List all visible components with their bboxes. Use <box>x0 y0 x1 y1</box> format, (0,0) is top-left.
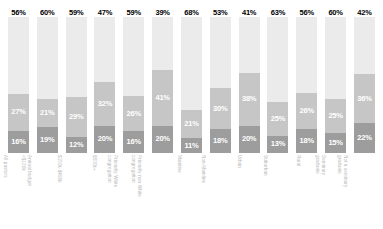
segment-value-label: 12% <box>69 141 83 149</box>
x-axis-label: Non-Mainline <box>200 155 206 183</box>
segment-value-label: 63% <box>271 9 285 17</box>
bar-segment-top: 60% <box>325 17 346 99</box>
bar-segment-middle: 21% <box>181 110 202 139</box>
x-axis-label-slot: Not a seminarygraduate <box>354 155 375 229</box>
x-axis-label-line: Non-Mainline <box>201 155 206 183</box>
bar-segment-bottom: 13% <box>267 136 288 154</box>
x-axis-label-slot: $150k-$499k <box>66 155 87 229</box>
x-axis-label-line: Primarily non-White <box>137 155 142 197</box>
x-axis-label-slot: Urban <box>239 155 260 229</box>
segment-value-label: 36% <box>357 95 371 103</box>
bar-segment-top: 41% <box>239 17 260 73</box>
bar-column[interactable]: 59%29%12% <box>66 17 87 153</box>
segment-value-label: 29% <box>69 113 83 121</box>
segment-value-label: 11% <box>184 142 198 150</box>
bar-column[interactable]: 63%25%13% <box>267 17 288 153</box>
bar-segment-middle: 29% <box>66 97 87 136</box>
x-axis-label: Rural <box>295 155 301 166</box>
bar-column[interactable]: 59%26%16% <box>123 17 144 153</box>
bar-segment-bottom: 20% <box>152 126 173 153</box>
segment-value-label: 42% <box>357 9 371 17</box>
segment-value-label: 16% <box>127 138 141 146</box>
x-axis-label-slot: Mainline <box>181 155 202 229</box>
segment-value-label: 15% <box>328 139 342 147</box>
segment-value-label: 59% <box>69 9 83 17</box>
segment-value-label: 60% <box>328 9 342 17</box>
segment-value-label: 18% <box>300 137 314 145</box>
bar-segment-bottom: 19% <box>37 127 58 153</box>
bar-segment-middle: 25% <box>267 102 288 136</box>
segment-value-label: 21% <box>40 109 54 117</box>
bar-segment-middle: 38% <box>239 73 260 125</box>
x-axis-label-line: $500k+ <box>92 155 97 171</box>
segment-value-label: 16% <box>11 138 25 146</box>
x-axis-label-line: Not a seminary <box>343 155 348 187</box>
x-axis-label-line: Annual budget <box>27 155 32 186</box>
x-axis-label-slot: Primarily non-Whitecongregation <box>152 155 173 229</box>
bar-segment-bottom: 20% <box>94 126 115 153</box>
bar-segment-top: 59% <box>66 17 87 97</box>
segment-value-label: 47% <box>98 9 112 17</box>
bar-segment-bottom: 11% <box>181 138 202 153</box>
bar-segment-top: 56% <box>8 17 29 94</box>
x-axis-label-line: Urban <box>238 155 243 168</box>
bar-segment-bottom: 18% <box>210 129 231 153</box>
segment-value-label: 56% <box>11 9 25 17</box>
bar-segment-bottom: 22% <box>354 123 375 153</box>
bar-segment-top: 42% <box>354 17 375 74</box>
bar-segment-bottom: 20% <box>239 126 260 153</box>
bar-column[interactable]: 42%36%22% <box>354 17 375 153</box>
segment-value-label: 26% <box>300 107 314 115</box>
segment-value-label: 25% <box>271 115 285 123</box>
bar-column[interactable]: 47%32%20% <box>94 17 115 153</box>
bar-column[interactable]: 60%25%15% <box>325 17 346 153</box>
bar-column[interactable]: 56%27%16% <box>8 17 29 153</box>
segment-value-label: 56% <box>300 9 314 17</box>
bar-segment-top: 39% <box>152 17 173 70</box>
x-axis-label-line: <$100k <box>20 155 26 186</box>
x-axis-label: Suburban <box>262 155 268 176</box>
bar-segment-bottom: 12% <box>66 137 87 153</box>
bar-segment-bottom: 18% <box>296 129 317 153</box>
x-axis-label-line: Mainline <box>178 155 183 173</box>
bar-segment-bottom: 16% <box>8 131 29 153</box>
segment-value-label: 19% <box>40 136 54 144</box>
bar-column[interactable]: 39%41%20% <box>152 17 173 153</box>
x-axis-label-line: All pastors <box>2 155 7 178</box>
segment-value-label: 22% <box>357 134 371 142</box>
segment-value-label: 41% <box>155 94 169 102</box>
bar-column[interactable]: 60%21%19% <box>37 17 58 153</box>
segment-value-label: 68% <box>184 9 198 17</box>
bar-segment-middle: 26% <box>123 96 144 131</box>
bar-segment-top: 59% <box>123 17 144 96</box>
bar-segment-top: 63% <box>267 17 288 102</box>
x-axis-label: Not a seminarygraduate <box>337 155 348 187</box>
x-axis-label: $150k-$499k <box>57 155 63 183</box>
x-axis-label: Urban <box>237 155 243 168</box>
segment-value-label: 39% <box>155 9 169 17</box>
plot-area: 56%27%16%60%21%19%59%29%12%47%32%20%59%2… <box>8 17 375 153</box>
segment-value-label: 25% <box>328 112 342 120</box>
bar-column[interactable]: 56%26%18% <box>296 17 317 153</box>
bar-column[interactable]: 68%21%11% <box>181 17 202 153</box>
x-axis-label-line: Seminary <box>321 155 326 175</box>
x-axis-label: Mainline <box>177 155 183 173</box>
bar-segment-top: 47% <box>94 17 115 82</box>
bar-segment-bottom: 16% <box>123 131 144 153</box>
bar-column[interactable]: 41%38%20% <box>239 17 260 153</box>
segment-value-label: 30% <box>213 105 227 113</box>
x-axis-label-row: All pastorsAnnual budget<$100k$150k-$499… <box>8 155 375 229</box>
bar-segment-top: 53% <box>210 17 231 88</box>
x-axis-label: Annual budget<$100k <box>20 155 31 186</box>
bar-segment-middle: 30% <box>210 88 231 128</box>
bar-segment-middle: 32% <box>94 82 115 126</box>
x-axis-label-line: Primarily White <box>113 155 118 187</box>
segment-value-label: 27% <box>11 109 25 117</box>
segment-value-label: 20% <box>242 136 256 144</box>
x-axis-label-line: $150k-$499k <box>57 155 62 183</box>
bar-column[interactable]: 53%30%18% <box>210 17 231 153</box>
segment-value-label: 41% <box>242 9 256 17</box>
x-axis-label: All pastors <box>1 155 7 178</box>
segment-value-label: 60% <box>40 9 54 17</box>
bar-segment-middle: 21% <box>37 99 58 128</box>
